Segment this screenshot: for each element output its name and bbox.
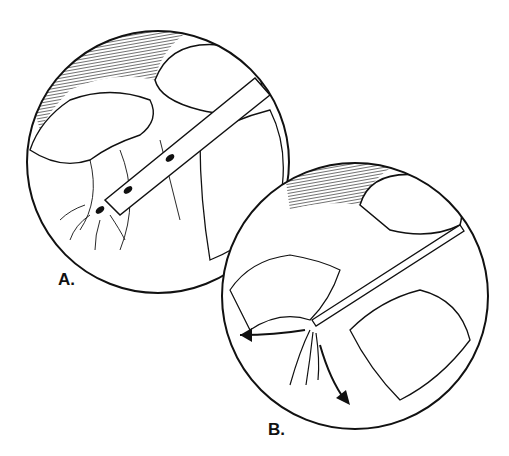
panel-a-label: A. bbox=[58, 270, 75, 290]
illustration-drawing bbox=[0, 0, 509, 456]
surgical-illustration: A. B. bbox=[0, 0, 509, 456]
panel-b-circle bbox=[222, 162, 488, 429]
panel-b-label: B. bbox=[268, 420, 285, 440]
